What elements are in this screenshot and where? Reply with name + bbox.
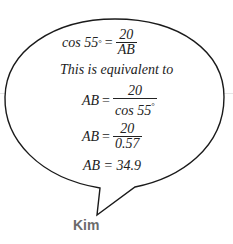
numerator: 20 [117,28,135,42]
cos-term: cos 55 [115,103,151,118]
equals-sign: = [102,93,110,109]
denominator: 0.57 [113,136,142,151]
equation-substituted: AB = 20 0.57 [82,122,142,151]
cos-term: cos 55 [62,35,98,51]
equals-sign: = [105,35,113,51]
equation-rearranged: AB = 20 cos 55° [82,84,157,118]
degree-symbol: ° [151,101,155,111]
ab-term: AB [82,93,99,109]
denominator: AB [116,42,137,57]
speaker-name: Kim [73,217,99,233]
equals-sign: = [102,129,110,145]
equation-cosine: cos 55° = 20 AB [62,28,137,57]
equation-result: AB = 34.9 [83,158,141,174]
numerator: 20 [126,84,144,98]
fraction: 20 cos 55° [113,84,157,118]
numerator: 20 [118,122,136,136]
fraction: 20 AB [116,28,137,57]
fraction: 20 0.57 [113,122,142,151]
ab-term: AB [82,129,99,145]
denominator: cos 55° [113,98,157,118]
equivalence-text: This is equivalent to [60,62,173,78]
degree-symbol: ° [98,38,102,48]
